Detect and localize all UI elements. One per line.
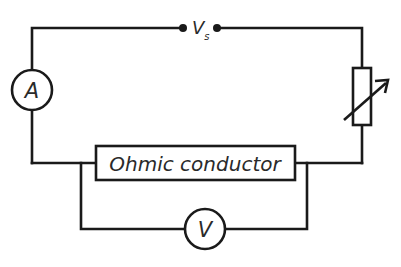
supply-terminal-right	[213, 24, 221, 32]
variable-resistor	[353, 68, 371, 125]
ohmic-conductor-label: Ohmic conductor	[109, 152, 282, 176]
supply-terminal-left	[179, 24, 187, 32]
supply-label: Vs	[192, 17, 210, 42]
wire-top-left	[32, 28, 183, 70]
wire-top-right	[217, 28, 362, 68]
voltmeter-label: V	[198, 218, 214, 242]
circuit-diagram: Vs A Ohmic conductor V	[0, 0, 401, 267]
ammeter-label: A	[23, 79, 39, 103]
